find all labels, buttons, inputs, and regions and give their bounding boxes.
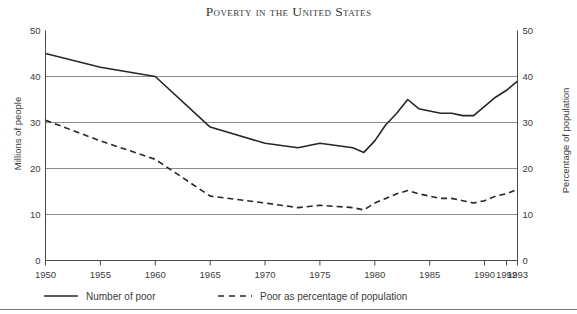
- x-tick-1975: 1975: [300, 269, 340, 280]
- y-left-tick-20: 20: [19, 163, 41, 174]
- legend-label-0: Number of poor: [86, 291, 155, 302]
- legend-dashed-line-icon: [218, 291, 252, 301]
- x-tick-1950: 1950: [26, 269, 66, 280]
- chart-figure: Poverty in the United States Millions of…: [0, 0, 577, 314]
- x-tick-1980: 1980: [355, 269, 395, 280]
- y-right-tick-40: 40: [523, 71, 545, 82]
- plot-canvas: [0, 0, 577, 314]
- bottom-rule: [0, 309, 577, 310]
- x-tick-1985: 1985: [410, 269, 450, 280]
- legend-solid-line-icon: [44, 291, 78, 301]
- y-right-tick-0: 0: [523, 255, 545, 266]
- legend-item-1: Poor as percentage of population: [218, 288, 407, 304]
- tick-marks: [46, 261, 518, 266]
- y-left-tick-10: 10: [19, 209, 41, 220]
- y-left-tick-50: 50: [19, 25, 41, 36]
- y-right-tick-30: 30: [523, 117, 545, 128]
- y-right-tick-20: 20: [523, 163, 545, 174]
- y-left-tick-30: 30: [19, 117, 41, 128]
- chart-legend: Number of poorPoor as percentage of popu…: [0, 288, 577, 306]
- x-tick-1955: 1955: [80, 269, 120, 280]
- y-left-tick-0: 0: [19, 255, 41, 266]
- y-right-tick-10: 10: [523, 209, 545, 220]
- x-tick-1965: 1965: [190, 269, 230, 280]
- series-line-1: [46, 120, 518, 210]
- y-left-tick-40: 40: [19, 71, 41, 82]
- x-tick-1993: 1993: [498, 269, 538, 280]
- y-axis-right-title: Percentage of population: [560, 76, 571, 206]
- y-right-tick-50: 50: [523, 25, 545, 36]
- legend-item-0: Number of poor: [44, 288, 155, 304]
- x-tick-1960: 1960: [135, 269, 175, 280]
- x-tick-1970: 1970: [245, 269, 285, 280]
- series-line-0: [46, 54, 518, 153]
- legend-label-1: Poor as percentage of population: [260, 291, 407, 302]
